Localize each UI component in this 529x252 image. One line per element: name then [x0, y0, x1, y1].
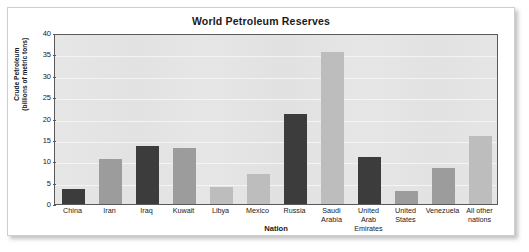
- y-axis-tick-label: 0: [35, 201, 51, 209]
- x-axis-tick-label-line: Iraq: [128, 207, 165, 216]
- x-axis-tick-label: Iraq: [128, 207, 165, 216]
- x-axis-tick-label: Russia: [276, 207, 313, 216]
- y-axis-tick-label: 30: [35, 73, 51, 81]
- y-axis-tick-label: 10: [35, 158, 51, 166]
- x-axis-tick-label-line: Mexico: [239, 207, 276, 216]
- y-axis-title-line-2: (billions of metric tons): [21, 14, 29, 134]
- y-axis-tick-label: 35: [35, 51, 51, 59]
- y-axis-title: Crude Petroleum (billions of metric tons…: [13, 14, 29, 134]
- x-axis-tick-label: SaudiArabia: [313, 207, 350, 225]
- bar: [62, 189, 84, 204]
- y-axis-tick-labels: 0510152025303540: [32, 34, 51, 205]
- y-axis-tick-label: 5: [35, 180, 51, 188]
- y-axis-tick-label: 40: [35, 30, 51, 38]
- bar: [247, 174, 269, 204]
- x-axis-title: Nation: [54, 224, 498, 233]
- x-axis-tick-label-line: Libya: [202, 207, 239, 216]
- figure-card: World Petroleum Reserves Crude Petroleum…: [7, 7, 515, 236]
- y-axis-tick-mark: [53, 55, 56, 56]
- x-axis-tick-label-line: China: [54, 207, 91, 216]
- y-axis-tick-label: 15: [35, 137, 51, 145]
- x-axis-tick-label: UnitedStates: [387, 207, 424, 225]
- bar: [358, 157, 380, 204]
- bar: [395, 191, 417, 204]
- x-axis-tick-label: Venezuela: [424, 207, 461, 216]
- y-axis-tick-mark: [53, 205, 56, 206]
- y-axis-tick-mark: [53, 184, 56, 185]
- y-axis-title-line-1: Crude Petroleum: [13, 14, 21, 134]
- bar-series: [55, 35, 497, 204]
- y-axis-tick-label: 25: [35, 94, 51, 102]
- x-axis-tick-label: China: [54, 207, 91, 216]
- y-axis-tick-label: 20: [35, 116, 51, 124]
- x-axis-tick-label: Mexico: [239, 207, 276, 216]
- bar: [173, 148, 195, 204]
- y-axis-tick-mark: [53, 34, 56, 35]
- bar: [432, 168, 454, 204]
- bar: [210, 187, 232, 204]
- x-axis-tick-label: Iran: [91, 207, 128, 216]
- bar: [136, 146, 158, 204]
- x-axis-tick-label: All othernations: [461, 207, 498, 225]
- x-axis-tick-label-line: Venezuela: [424, 207, 461, 216]
- x-axis-tick-label-line: Iran: [91, 207, 128, 216]
- bar: [469, 136, 491, 204]
- y-axis-tick-mark: [53, 162, 56, 163]
- x-axis-tick-label-line: Kuwait: [165, 207, 202, 216]
- bar: [321, 52, 343, 204]
- x-axis-tick-label: Kuwait: [165, 207, 202, 216]
- chart-title: World Petroleum Reserves: [8, 15, 514, 27]
- plot-area: [54, 34, 498, 205]
- bar: [284, 114, 306, 204]
- x-axis-tick-label: Libya: [202, 207, 239, 216]
- bar: [99, 159, 121, 204]
- x-axis-tick-label-line: Russia: [276, 207, 313, 216]
- y-axis-tick-mark: [53, 120, 56, 121]
- y-axis-tick-mark: [53, 77, 56, 78]
- x-axis-tick-label-line: United Arab: [350, 207, 387, 225]
- y-axis-tick-mark: [53, 98, 56, 99]
- y-axis-tick-mark: [53, 141, 56, 142]
